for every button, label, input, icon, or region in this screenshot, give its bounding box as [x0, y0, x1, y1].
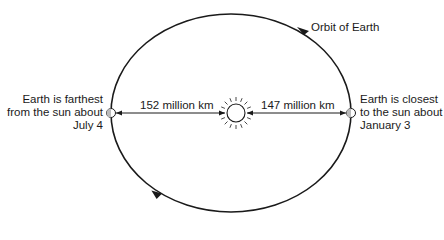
aphelion-arrowhead-left — [116, 111, 122, 116]
perihelion-distance-label: 147 million km — [261, 99, 335, 112]
earth-aphelion-icon — [107, 109, 116, 118]
aphelion-description: Earth is farthest from the sun about Jul… — [7, 93, 103, 132]
aphelion-distance-label: 152 million km — [140, 99, 214, 112]
aphelion-line-3: July 4 — [7, 119, 103, 132]
perihelion-description: Earth is closest to the sun about Januar… — [360, 93, 442, 132]
earth-perihelion-icon — [347, 109, 356, 118]
orbit-label: Orbit of Earth — [311, 21, 379, 34]
perihelion-line-3: January 3 — [360, 119, 442, 132]
perihelion-arrowhead-right — [340, 111, 346, 116]
aphelion-line-2: from the sun about — [7, 106, 103, 119]
perihelion-line-1: Earth is closest — [360, 93, 442, 106]
orbit-direction-arrow-bottom — [151, 190, 163, 199]
aphelion-line-1: Earth is farthest — [7, 93, 103, 106]
perihelion-line-2: to the sun about — [360, 106, 442, 119]
